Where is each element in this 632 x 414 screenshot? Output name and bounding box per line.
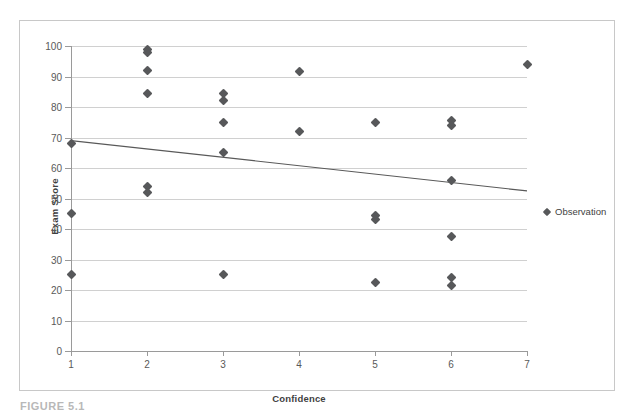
- gridline: [71, 77, 527, 78]
- x-axis-tick: [375, 351, 376, 356]
- x-axis-tick-label: 2: [144, 359, 150, 370]
- x-axis-tick: [451, 351, 452, 356]
- data-point-marker: [294, 67, 304, 77]
- y-axis-tick: [65, 77, 71, 78]
- y-axis-tick-label: 50: [51, 193, 62, 204]
- x-axis-tick: [223, 351, 224, 356]
- data-point-marker: [218, 270, 228, 280]
- y-axis-tick-label: 100: [45, 41, 62, 52]
- data-point-marker: [218, 117, 228, 127]
- data-point-marker: [66, 139, 76, 149]
- y-axis-tick-label: 90: [51, 71, 62, 82]
- gridline: [71, 260, 527, 261]
- x-axis-tick-label: 7: [524, 359, 530, 370]
- y-axis-tick-label: 80: [51, 102, 62, 113]
- y-axis-tick: [65, 260, 71, 261]
- data-point-marker: [446, 175, 456, 185]
- x-axis-tick-label: 6: [448, 359, 454, 370]
- x-axis-tick-label: 5: [372, 359, 378, 370]
- data-point-marker: [142, 187, 152, 197]
- y-axis-line: [71, 46, 72, 351]
- gridline: [71, 199, 527, 200]
- x-axis-tick: [527, 351, 528, 356]
- data-point-marker: [66, 209, 76, 219]
- x-axis-tick: [299, 351, 300, 356]
- gridline: [71, 46, 527, 47]
- y-axis-tick: [65, 46, 71, 47]
- legend-entry-label: Observation: [555, 206, 606, 217]
- data-point-marker: [142, 88, 152, 98]
- y-axis-tick-label: 0: [56, 346, 62, 357]
- y-axis-tick: [65, 290, 71, 291]
- gridline: [71, 168, 527, 169]
- data-point-marker: [370, 117, 380, 127]
- y-axis-tick-label: 70: [51, 132, 62, 143]
- gridline: [71, 321, 527, 322]
- data-point-marker: [218, 148, 228, 158]
- data-point-marker: [446, 232, 456, 242]
- gridline: [71, 138, 527, 139]
- plot-area: 0102030405060708090100 1234567: [71, 46, 527, 351]
- data-point-marker: [370, 277, 380, 287]
- diamond-marker-icon: [543, 207, 551, 215]
- data-point-marker: [218, 96, 228, 106]
- gridline: [71, 229, 527, 230]
- y-axis-tick-label: 30: [51, 254, 62, 265]
- chart-frame: Exam Score 0102030405060708090100 123456…: [19, 20, 615, 391]
- x-axis-tick-label: 4: [296, 359, 302, 370]
- x-axis-title-label: Confidence: [272, 393, 326, 404]
- data-point-marker: [446, 280, 456, 290]
- data-point-marker: [522, 59, 532, 69]
- legend: Observation: [544, 206, 606, 217]
- y-axis-tick-label: 40: [51, 224, 62, 235]
- gridline: [71, 107, 527, 108]
- x-axis-tick-label: 3: [220, 359, 226, 370]
- y-axis-tick: [65, 321, 71, 322]
- y-axis-tick-label: 20: [51, 285, 62, 296]
- y-axis-tick-label: 10: [51, 315, 62, 326]
- y-axis-tick: [65, 229, 71, 230]
- data-point-marker: [294, 126, 304, 136]
- x-axis-title: Confidence: [71, 393, 527, 404]
- x-axis-tick-label: 1: [68, 359, 74, 370]
- gridline: [71, 290, 527, 291]
- figure-caption: FIGURE 5.1: [20, 400, 85, 414]
- y-axis-tick-label: 60: [51, 163, 62, 174]
- data-point-marker: [142, 65, 152, 75]
- x-axis-tick: [71, 351, 72, 356]
- y-axis-tick: [65, 107, 71, 108]
- y-axis-tick: [65, 199, 71, 200]
- x-axis-tick: [147, 351, 148, 356]
- y-axis-tick: [65, 168, 71, 169]
- data-point-marker: [66, 270, 76, 280]
